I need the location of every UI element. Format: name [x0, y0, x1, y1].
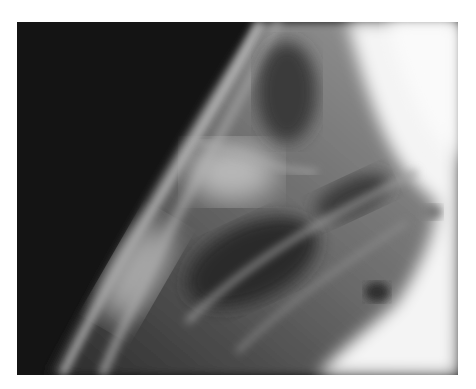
xray-image [17, 22, 458, 375]
xray-rendering [17, 22, 458, 375]
